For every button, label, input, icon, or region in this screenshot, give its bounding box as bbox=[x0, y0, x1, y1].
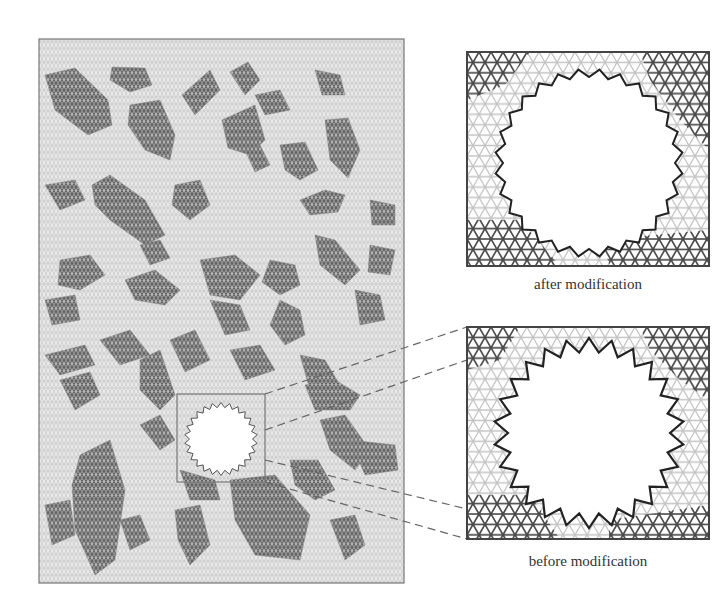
damage-cluster bbox=[368, 245, 395, 275]
caption-before: before modification bbox=[467, 553, 709, 570]
main-lattice-panel bbox=[39, 39, 404, 583]
detail-before-panel bbox=[467, 327, 709, 539]
hole-after bbox=[496, 70, 683, 257]
detail-after-panel bbox=[467, 52, 709, 266]
caption-after: after modification bbox=[467, 276, 709, 293]
figure-canvas bbox=[0, 0, 721, 616]
